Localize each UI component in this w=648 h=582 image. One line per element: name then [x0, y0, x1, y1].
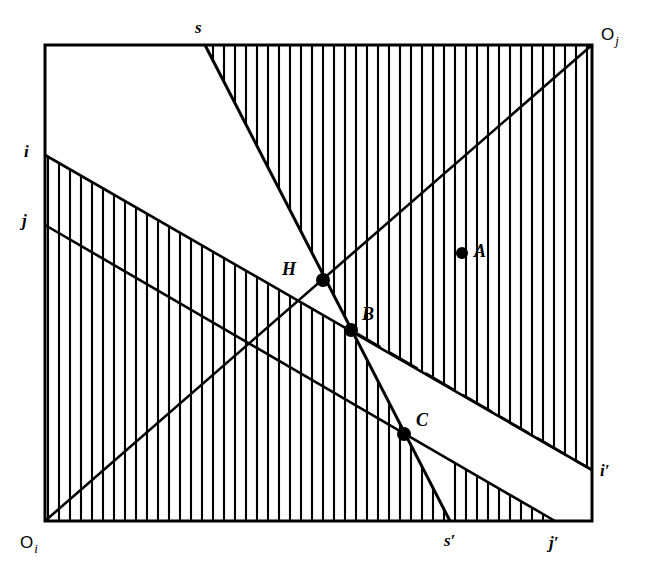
point-H[interactable] [316, 273, 330, 287]
origin-i-base: O [20, 533, 33, 552]
label-i: i [24, 142, 29, 161]
label-s: s [194, 18, 202, 37]
point-C[interactable] [397, 427, 411, 441]
point-H-label: H [281, 259, 297, 279]
figure-canvas: HBCA siji′s′j′ OiOj [0, 0, 648, 582]
edgeworth-box-figure: HBCA siji′s′j′ OiOj [0, 0, 648, 582]
point-A[interactable] [456, 247, 468, 259]
label-i-prime: i′ [600, 461, 610, 480]
point-C-label: C [416, 410, 429, 430]
point-A-label: A [473, 241, 486, 261]
point-B-label: B [361, 304, 374, 324]
origin-j-base: O [601, 25, 614, 44]
origin-i-subscript: i [34, 541, 38, 556]
label-s-prime: s′ [443, 531, 455, 550]
point-B[interactable] [344, 323, 358, 337]
